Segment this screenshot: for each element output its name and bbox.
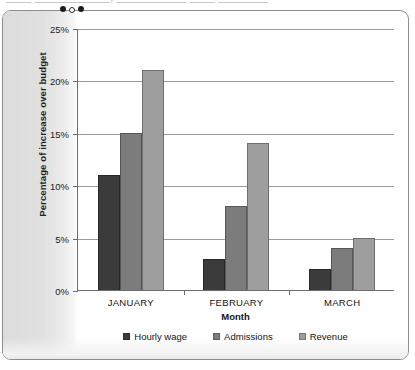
bar-january-hourly-wage[interactable] [98, 175, 120, 290]
legend-item-revenue[interactable]: Revenue [299, 331, 348, 342]
y-axis-label: 25% [50, 24, 69, 35]
bar-january-admissions[interactable] [120, 133, 142, 290]
x-axis-category-label: JANUARY [108, 297, 154, 308]
x-axis-tick [184, 290, 185, 295]
y-axis-label: 5% [55, 233, 69, 244]
bullet-dot-filled-right [78, 6, 84, 12]
bullet-dot-filled-left [60, 6, 66, 12]
bullet-dots [60, 6, 88, 14]
cut-off-text: ____ ____________, ___________ ____ ____… [6, 0, 269, 3]
x-axis-category-label: FEBRUARY [210, 297, 264, 308]
legend-swatch-icon [123, 333, 130, 340]
x-axis-title: Month [77, 311, 394, 322]
y-axis-label: 15% [50, 128, 69, 139]
plot-inner: 0%5%10%15%20%25% JANUARYFEBRUARYMARCH [77, 29, 394, 291]
chart-frame: Percentage of increase over budget 0%5%1… [2, 10, 409, 360]
y-axis-title: Percentage of increase over budget [37, 20, 48, 250]
x-axis-tick [289, 290, 290, 295]
bar-march-revenue[interactable] [353, 238, 375, 290]
legend-label: Admissions [224, 331, 273, 342]
legend-swatch-icon [299, 333, 306, 340]
bar-group-march: MARCH [289, 29, 395, 290]
legend-swatch-icon [213, 333, 220, 340]
y-tick-0% [73, 291, 78, 292]
y-axis-label: 20% [50, 76, 69, 87]
chart-legend: Hourly wageAdmissionsRevenue [77, 331, 394, 342]
y-axis-label: 0% [55, 286, 69, 297]
bar-group-february: FEBRUARY [184, 29, 290, 290]
x-axis-category-label: MARCH [324, 297, 360, 308]
bar-january-revenue[interactable] [142, 70, 164, 290]
bar-march-admissions[interactable] [331, 248, 353, 290]
bar-february-hourly-wage[interactable] [203, 259, 225, 290]
bar-march-hourly-wage[interactable] [309, 269, 331, 290]
bullet-dot-hollow-center [69, 7, 75, 13]
legend-item-admissions[interactable]: Admissions [213, 331, 273, 342]
plot-area: 0%5%10%15%20%25% JANUARYFEBRUARYMARCH [77, 29, 394, 291]
legend-item-hourly-wage[interactable]: Hourly wage [123, 331, 187, 342]
bar-february-revenue[interactable] [247, 143, 269, 290]
bar-group-january: JANUARY [78, 29, 184, 290]
legend-label: Revenue [310, 331, 348, 342]
bar-february-admissions[interactable] [225, 206, 247, 290]
legend-label: Hourly wage [134, 331, 187, 342]
y-axis-label: 10% [50, 181, 69, 192]
